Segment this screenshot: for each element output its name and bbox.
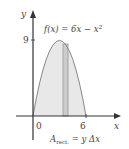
- x-tick-label-0: 0: [36, 121, 42, 131]
- x-axis-arrow-icon: [114, 113, 121, 119]
- y-axis-arrow-icon: [30, 10, 36, 18]
- function-label: f(x) = 6x − x2: [43, 24, 103, 34]
- y-tick-label-9: 9: [23, 35, 29, 45]
- x-tick-label-6: 6: [80, 121, 86, 131]
- y-axis-label: y: [20, 9, 27, 19]
- area-formula: Arect. = y Δx: [49, 134, 100, 145]
- x-axis-label: x: [114, 121, 119, 131]
- area-under-parabola-diagram: y x 9 0 6 f(x) = 6x − x2 Arect. = y Δx: [0, 0, 129, 149]
- representative-rectangle: [63, 44, 68, 116]
